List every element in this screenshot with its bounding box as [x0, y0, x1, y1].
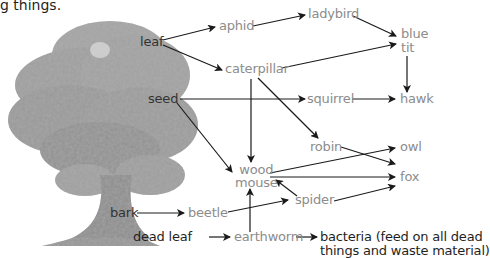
node-leaf: leaf	[140, 35, 163, 49]
arrow-ladybird-bluetit	[353, 16, 396, 36]
arrow-leaf-caterpillar	[163, 45, 222, 70]
arrow-caterpillar-robin	[258, 78, 318, 138]
node-blue-tit: blue tit	[401, 27, 428, 55]
node-beetle: beetle	[188, 206, 228, 220]
node-owl: owl	[400, 140, 422, 154]
node-aphid: aphid	[219, 19, 254, 33]
arrow-spider-fox	[334, 186, 395, 201]
arrow-leaf-aphid	[163, 27, 215, 40]
node-bacteria: bacteria (feed on all dead things and wa…	[320, 230, 490, 258]
node-squirrel: squirrel	[307, 92, 354, 106]
node-spider: spider	[295, 193, 334, 207]
node-hawk: hawk	[400, 92, 434, 106]
node-dead-leaf: dead leaf	[133, 230, 192, 244]
arrow-caterpillar-bluetit	[282, 44, 396, 68]
node-earthworm: earthworm	[234, 230, 303, 244]
node-fox: fox	[400, 170, 419, 184]
node-wood-mouse: wood mouse	[235, 163, 278, 189]
node-caterpillar: caterpillar	[225, 62, 289, 76]
arrow-seed-woodmouse	[177, 103, 232, 172]
node-ladybird: ladybird	[308, 7, 359, 21]
node-seed: seed	[148, 92, 178, 106]
intro-text: g things.	[0, 0, 61, 13]
arrow-aphid-ladybird	[253, 15, 305, 26]
arrow-beetle-spider	[228, 200, 288, 212]
node-bark: bark	[110, 206, 138, 220]
node-robin: robin	[310, 140, 342, 154]
arrow-spider-woodmouse	[276, 180, 297, 196]
